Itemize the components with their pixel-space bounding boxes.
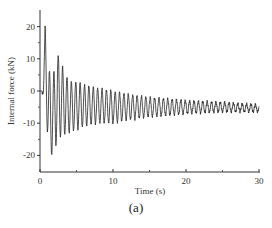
x-tick-label: 10 [109, 176, 119, 186]
y-tick-label: -10 [23, 118, 35, 128]
series-line-internal-force [40, 26, 259, 155]
x-tick-label: 0 [38, 176, 43, 186]
y-axis-title: Internal force (kN) [6, 57, 16, 125]
y-tick-label: -20 [23, 150, 35, 160]
x-tick-label: 30 [255, 176, 265, 186]
y-tick-label: 0 [31, 86, 36, 96]
y-tick-label: 10 [26, 54, 36, 64]
figure-caption: (a) [129, 200, 143, 215]
series-polyline [40, 26, 259, 155]
chart: 20100-10-20 0102030 Internal force (kN) … [0, 0, 272, 228]
x-axis-title: Time (s) [135, 186, 165, 196]
x-tick-label: 20 [182, 176, 192, 186]
y-tick-label: 20 [26, 22, 36, 32]
